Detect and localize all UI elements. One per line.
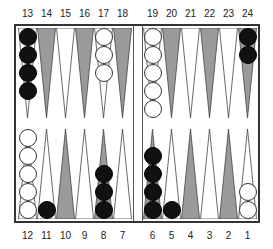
black-checker[interactable] [144,183,162,201]
point-triangle-icon [113,28,132,120]
point-7[interactable] [113,127,132,219]
black-checker[interactable] [239,46,257,64]
point-triangle-icon [181,28,200,120]
point-label: 5 [162,229,181,243]
point-label: 8 [94,229,113,243]
white-checker[interactable] [19,129,37,147]
black-checker[interactable] [144,165,162,183]
white-checker[interactable] [19,147,37,165]
white-checker[interactable] [19,165,37,183]
point-23[interactable] [219,28,238,120]
point-triangle-icon [75,28,94,120]
point-17[interactable] [94,28,113,120]
point-label: 11 [37,229,56,243]
point-21[interactable] [181,28,200,120]
point-label: 24 [238,7,257,21]
white-checker[interactable] [239,201,257,219]
backgammon-board [14,24,260,223]
point-triangle-icon [200,127,219,219]
point-label: 12 [18,229,37,243]
point-19[interactable] [143,28,162,120]
point-triangle-icon [113,127,132,219]
point-1[interactable] [238,127,257,219]
point-label: 16 [75,7,94,21]
point-20[interactable] [162,28,181,120]
point-triangle-icon [37,28,56,120]
white-checker[interactable] [144,46,162,64]
point-15[interactable] [56,28,75,120]
point-label: 10 [56,229,75,243]
black-checker[interactable] [19,64,37,82]
point-label: 22 [200,7,219,21]
point-3[interactable] [200,127,219,219]
point-label: 21 [181,7,200,21]
point-18[interactable] [113,28,132,120]
black-checker[interactable] [38,201,56,219]
point-24[interactable] [238,28,257,120]
black-checker[interactable] [144,147,162,165]
point-label: 1 [238,229,257,243]
white-checker[interactable] [95,46,113,64]
black-checker[interactable] [19,82,37,100]
black-checker[interactable] [95,165,113,183]
bottom-point-labels: 121110987654321 [0,229,273,243]
point-label: 4 [181,229,200,243]
point-8[interactable] [94,127,113,219]
white-checker[interactable] [19,183,37,201]
point-triangle-icon [75,127,94,219]
point-12[interactable] [18,127,37,219]
point-label: 17 [94,7,113,21]
point-label: 14 [37,7,56,21]
white-checker[interactable] [239,183,257,201]
point-10[interactable] [56,127,75,219]
white-checker[interactable] [144,100,162,118]
point-label: 9 [75,229,94,243]
white-checker[interactable] [95,28,113,46]
black-checker[interactable] [95,201,113,219]
white-checker[interactable] [19,201,37,219]
point-6[interactable] [143,127,162,219]
point-label: 3 [200,229,219,243]
point-14[interactable] [37,28,56,120]
white-checker[interactable] [144,64,162,82]
black-checker[interactable] [163,201,181,219]
point-4[interactable] [181,127,200,219]
black-checker[interactable] [144,201,162,219]
point-label: 18 [113,7,132,21]
point-label: 19 [143,7,162,21]
white-checker[interactable] [144,28,162,46]
point-label: 6 [143,229,162,243]
point-13[interactable] [18,28,37,120]
point-triangle-icon [219,28,238,120]
point-label: 20 [162,7,181,21]
black-checker[interactable] [19,46,37,64]
black-checker[interactable] [239,28,257,46]
point-5[interactable] [162,127,181,219]
point-triangle-icon [219,127,238,219]
point-triangle-icon [162,28,181,120]
black-checker[interactable] [19,28,37,46]
white-checker[interactable] [95,64,113,82]
point-label: 7 [113,229,132,243]
white-checker[interactable] [144,82,162,100]
point-9[interactable] [75,127,94,219]
point-triangle-icon [56,127,75,219]
point-triangle-icon [200,28,219,120]
point-2[interactable] [219,127,238,219]
point-11[interactable] [37,127,56,219]
top-point-labels: 131415161718192021222324 [0,7,273,21]
point-22[interactable] [200,28,219,120]
point-label: 23 [219,7,238,21]
point-label: 13 [18,7,37,21]
point-label: 2 [219,229,238,243]
point-triangle-icon [181,127,200,219]
point-16[interactable] [75,28,94,120]
black-checker[interactable] [95,183,113,201]
point-label: 15 [56,7,75,21]
point-triangle-icon [56,28,75,120]
bar[interactable] [133,26,143,221]
